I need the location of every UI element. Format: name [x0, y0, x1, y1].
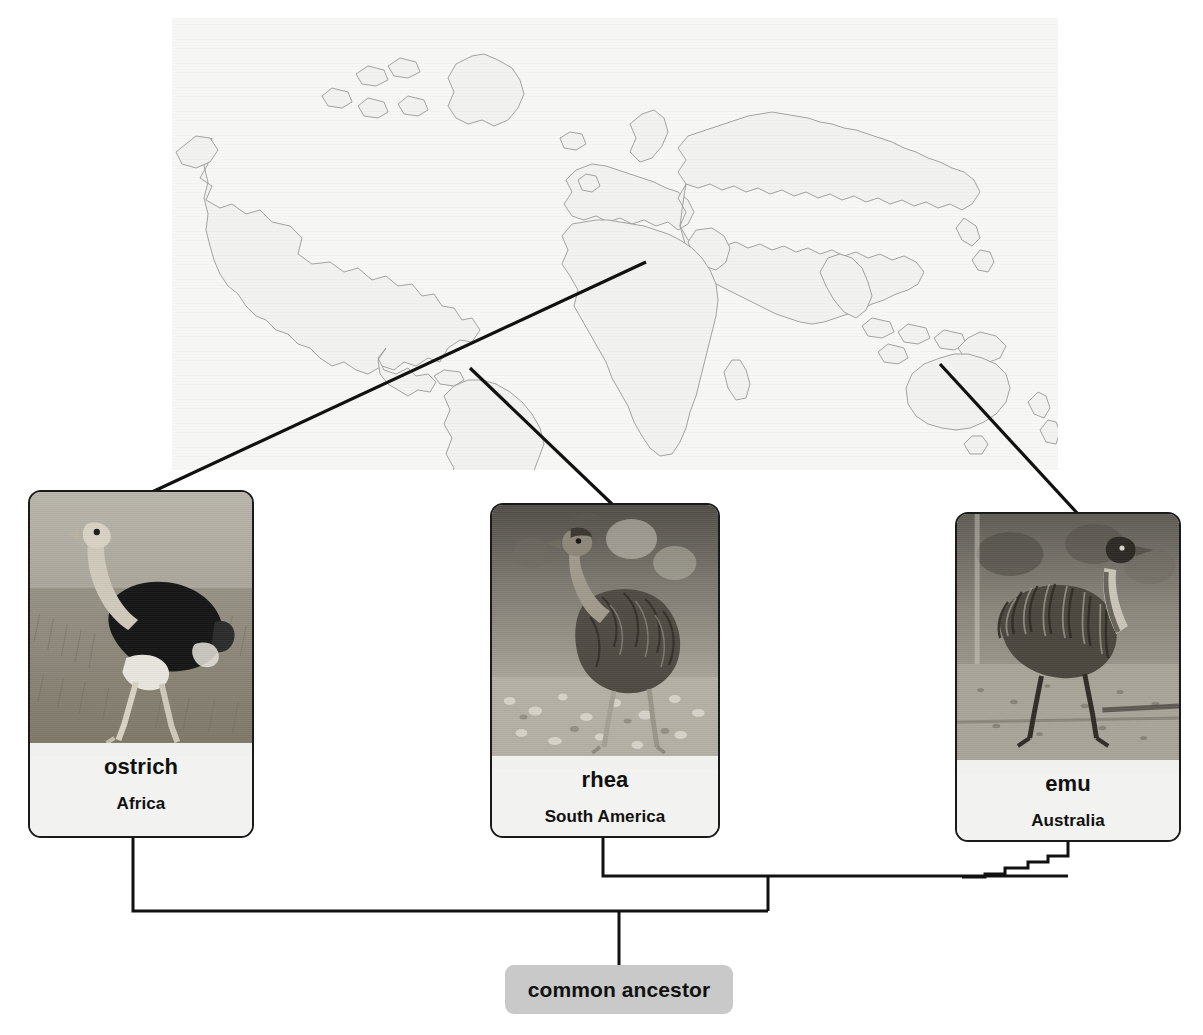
emu-species-name: emu [957, 773, 1179, 795]
common-ancestor-label: common ancestor [528, 978, 710, 1002]
ostrich-photo [30, 492, 252, 743]
rhea-photo [492, 505, 718, 756]
emu-label-band: emu Australia [957, 773, 1179, 842]
emu-photo [957, 514, 1179, 760]
rhea-label-band: rhea South America [492, 769, 718, 838]
emu-region-name: Australia [957, 812, 1179, 829]
ostrich-region-name: Africa [30, 795, 252, 812]
common-ancestor-box[interactable]: common ancestor [505, 965, 733, 1014]
ostrich-species-name: ostrich [30, 756, 252, 778]
clado-branch-ostrich [133, 838, 768, 911]
rhea-species-name: rhea [492, 769, 718, 791]
clado-branch-rhea [603, 838, 1068, 876]
species-card-emu[interactable]: emu Australia [955, 512, 1181, 842]
diagram-canvas: ostrich Africa [0, 0, 1203, 1035]
rhea-photo-svg [492, 505, 718, 756]
emu-photo-svg [957, 514, 1179, 760]
world-map [172, 18, 1058, 470]
ostrich-label-band: ostrich Africa [30, 756, 252, 838]
species-card-ostrich[interactable]: ostrich Africa [28, 490, 254, 838]
clado-branch-emu [962, 842, 1068, 877]
world-map-svg [172, 18, 1058, 470]
species-card-rhea[interactable]: rhea South America [490, 503, 720, 838]
rhea-region-name: South America [492, 808, 718, 825]
ostrich-photo-svg [30, 492, 252, 743]
